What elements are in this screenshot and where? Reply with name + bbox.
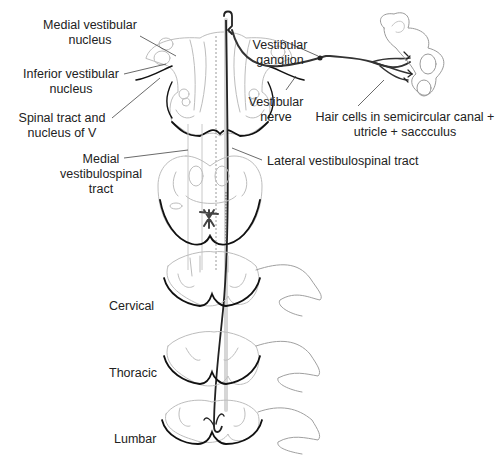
label-medial-vestibulospinal-tract: Medial vestibulospinal tract	[56, 152, 146, 197]
label-inferior-vestibular-nucleus: Inferior vestibular nucleus	[16, 67, 126, 97]
label-lumbar: Lumbar	[114, 432, 156, 447]
caudal-medulla-section	[158, 156, 262, 245]
label-vestibular-nerve: Vestibular nerve	[246, 95, 306, 125]
vestibulospinal-tracts	[188, 20, 228, 432]
label-lateral-vestibulospinal-tract: Lateral vestibulospinal tract	[267, 154, 418, 169]
label-hair-cells: Hair cells in semicircular canal + utric…	[306, 110, 504, 140]
label-thoracic: Thoracic	[109, 366, 157, 381]
spinal-cord-thoracic	[164, 332, 320, 392]
label-vestibular-ganglion: Vestibular ganglion	[250, 38, 310, 68]
spinal-cord-lumbar	[162, 400, 320, 454]
label-medial-vestibular-nucleus: Medial vestibular nucleus	[38, 18, 142, 48]
label-cervical: Cervical	[109, 299, 154, 314]
label-spinal-tract-nucleus-v: Spinal tract and nucleus of V	[14, 111, 110, 141]
